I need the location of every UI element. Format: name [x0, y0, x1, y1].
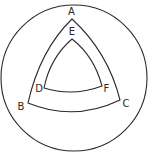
label-a: A	[68, 6, 75, 17]
label-d: D	[35, 83, 43, 94]
inner-curved-triangle	[44, 39, 102, 92]
diagram-canvas: A B C E D F	[0, 0, 149, 157]
label-b: B	[18, 101, 25, 112]
label-e: E	[69, 26, 75, 37]
label-f: F	[104, 83, 110, 94]
label-c: C	[123, 98, 130, 109]
